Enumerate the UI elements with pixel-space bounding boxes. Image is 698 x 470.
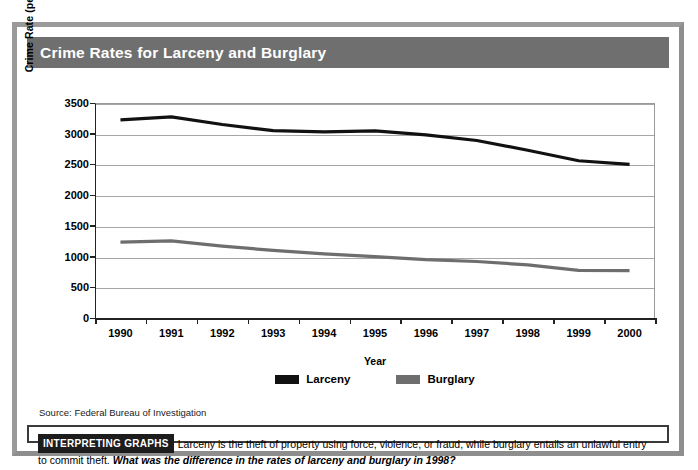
x-axis-line [95, 318, 655, 320]
y-tick-mark [90, 133, 95, 135]
x-axis-label: Year [95, 355, 655, 367]
legend-item-burglary[interactable]: Burglary [396, 373, 474, 385]
series-line-larceny [120, 117, 629, 165]
x-tick-label: 1994 [312, 327, 336, 339]
y-tick-label: 0 [83, 312, 89, 324]
chart-legend: LarcenyBurglary [95, 373, 655, 385]
y-tick-mark [90, 225, 95, 227]
y-tick-mark [90, 103, 95, 105]
x-tick-mark [146, 318, 148, 324]
x-tick-mark [350, 318, 352, 324]
legend-label-burglary: Burglary [427, 373, 474, 385]
x-tick-label: 1996 [414, 327, 438, 339]
interpreting-graphs-badge: INTERPRETING GRAPHS [38, 434, 174, 453]
x-tick-label: 1999 [566, 327, 590, 339]
y-tick-label: 1000 [65, 251, 89, 263]
legend-swatch-larceny [275, 375, 299, 384]
series-line-burglary [120, 241, 629, 271]
y-axis-label: Crime Rate (per 100,000 population) [23, 0, 39, 91]
y-tick-label: 2500 [65, 158, 89, 170]
x-tick-mark [451, 318, 453, 324]
y-tick-mark [90, 256, 95, 258]
plot-area-wrapper: Year 05001000150020002500300035001990199… [95, 103, 655, 318]
figure-title-bar: Crime Rates for Larceny and Burglary [27, 37, 669, 68]
x-tick-mark [197, 318, 199, 324]
x-tick-label: 1998 [515, 327, 539, 339]
page-title: Crime Rates for Larceny and Burglary [27, 44, 326, 62]
figure-card: Crime Rates for Larceny and Burglary Cri… [17, 27, 679, 451]
caption-question: What was the difference in the rates of … [113, 454, 456, 466]
y-tick-label: 500 [71, 281, 89, 293]
source-note: Source: Federal Bureau of Investigation [39, 407, 206, 418]
legend-item-larceny[interactable]: Larceny [275, 373, 350, 385]
y-tick-mark [90, 164, 95, 166]
y-tick-label: 1500 [65, 220, 89, 232]
x-tick-label: 1991 [159, 327, 183, 339]
x-tick-label: 1990 [108, 327, 132, 339]
caption-text: INTERPRETING GRAPHSLarceny is the theft … [38, 434, 657, 469]
x-tick-mark [604, 318, 606, 324]
x-tick-mark [95, 318, 97, 324]
y-tick-label: 3000 [65, 128, 89, 140]
y-tick-mark [90, 195, 95, 197]
x-tick-label: 1993 [261, 327, 285, 339]
series-layer [95, 103, 655, 318]
x-tick-label: 1997 [465, 327, 489, 339]
y-tick-label: 2000 [65, 189, 89, 201]
x-tick-mark [553, 318, 555, 324]
x-tick-mark [502, 318, 504, 324]
interpreting-graphs-box: INTERPRETING GRAPHSLarceny is the theft … [27, 425, 669, 443]
chart-container: Crime Rate (per 100,000 population) Year… [27, 73, 669, 383]
x-tick-label: 2000 [617, 327, 641, 339]
x-tick-mark [400, 318, 402, 324]
x-tick-label: 1992 [210, 327, 234, 339]
x-tick-label: 1995 [363, 327, 387, 339]
legend-label-larceny: Larceny [306, 373, 350, 385]
figure-frame: Crime Rates for Larceny and Burglary Cri… [12, 22, 684, 456]
x-tick-mark [655, 318, 657, 324]
x-tick-mark [299, 318, 301, 324]
x-tick-mark [248, 318, 250, 324]
y-tick-label: 3500 [65, 97, 89, 109]
y-tick-mark [90, 287, 95, 289]
legend-swatch-burglary [396, 375, 420, 384]
